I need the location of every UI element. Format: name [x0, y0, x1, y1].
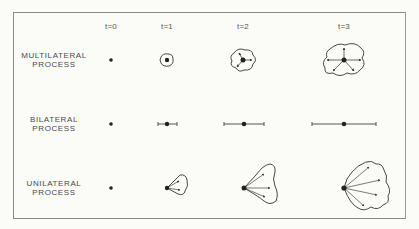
multilateral-t0-point — [109, 58, 113, 62]
unilateral-t1-fan — [165, 175, 188, 195]
multilateral-t3-blob — [323, 44, 364, 76]
multilateral-t2-blob — [231, 49, 256, 71]
unilateral-t2-fan — [242, 164, 278, 204]
unilateral-t3-fan — [341, 161, 389, 209]
bilateral-t0-point — [109, 122, 113, 126]
diffusion-diagram — [0, 0, 419, 229]
bilateral-t2-bar — [224, 122, 264, 127]
multilateral-t1-blob — [160, 54, 173, 66]
bilateral-t1-bar — [158, 122, 177, 126]
bilateral-t3-bar — [312, 122, 376, 127]
unilateral-t0-point — [109, 186, 113, 190]
